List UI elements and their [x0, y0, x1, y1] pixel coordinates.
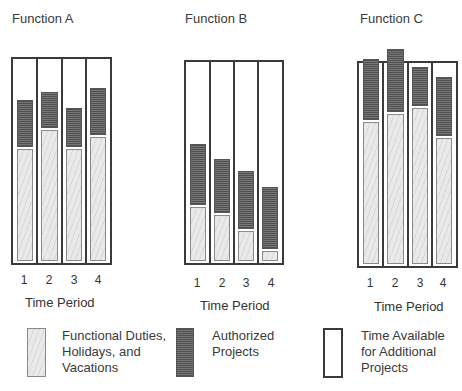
column-divider [257, 62, 259, 263]
bar-functional-duties [41, 130, 57, 261]
bar-functional-duties [190, 207, 206, 261]
column-divider [209, 62, 211, 263]
chart-panel-function-b [184, 60, 284, 265]
bar-functional-duties [387, 114, 403, 264]
x-tick-c-1: 1 [363, 276, 377, 290]
column-divider [407, 63, 409, 266]
bar-authorized-projects [387, 49, 403, 112]
bar-functional-duties [17, 149, 33, 261]
x-tick-a-4: 4 [91, 273, 105, 287]
x-tick-b-2: 2 [215, 276, 229, 290]
chart-title-function-c: Function C [360, 11, 423, 26]
column-divider [61, 59, 63, 263]
legend-label-authorized-projects: Authorized Projects [212, 328, 274, 360]
bar-authorized-projects [436, 77, 452, 136]
column-divider [382, 63, 384, 266]
x-tick-c-3: 3 [413, 276, 427, 290]
bar-functional-duties [90, 137, 106, 261]
legend-swatch-functional-duties [27, 328, 46, 377]
bar-authorized-projects [363, 59, 379, 120]
x-tick-b-3: 3 [239, 276, 253, 290]
column-divider [36, 59, 38, 263]
bar-functional-duties [214, 215, 230, 261]
column-divider [85, 59, 87, 263]
bar-functional-duties [412, 108, 428, 264]
bar-authorized-projects [90, 88, 106, 135]
chart-title-function-a: Function A [12, 11, 73, 26]
bar-authorized-projects [412, 67, 428, 106]
bar-functional-duties [66, 149, 82, 261]
bar-functional-duties [262, 251, 278, 261]
x-tick-c-2: 2 [388, 276, 402, 290]
bar-functional-duties [238, 231, 254, 261]
bar-authorized-projects [214, 159, 230, 213]
x-tick-a-1: 1 [17, 273, 31, 287]
bar-functional-duties [436, 138, 452, 264]
chart-title-function-b: Function B [185, 11, 247, 26]
x-tick-a-3: 3 [67, 273, 81, 287]
legend-label-functional-duties: Functional Duties, Holidays, and Vacatio… [62, 328, 166, 376]
bar-authorized-projects [262, 187, 278, 249]
x-tick-c-4: 4 [436, 276, 450, 290]
x-axis-label-b: Time Period [200, 298, 270, 313]
x-tick-b-1: 1 [190, 276, 204, 290]
column-divider [233, 62, 235, 263]
x-tick-b-4: 4 [264, 276, 278, 290]
column-divider [431, 63, 433, 266]
chart-panel-function-c [357, 61, 458, 268]
bar-authorized-projects [17, 100, 33, 147]
bar-authorized-projects [41, 92, 57, 129]
legend-label-time-available: Time Available for Additional Projects [361, 328, 445, 376]
x-axis-label-a: Time Period [25, 295, 95, 310]
bar-authorized-projects [190, 144, 206, 204]
x-axis-label-c: Time Period [374, 299, 444, 314]
chart-panel-function-a [11, 57, 112, 265]
legend-swatch-time-available [323, 328, 343, 378]
bar-authorized-projects [66, 108, 82, 147]
bar-functional-duties [363, 122, 379, 264]
x-tick-a-2: 2 [42, 273, 56, 287]
bar-authorized-projects [238, 171, 254, 229]
legend-swatch-authorized-projects [176, 328, 194, 377]
